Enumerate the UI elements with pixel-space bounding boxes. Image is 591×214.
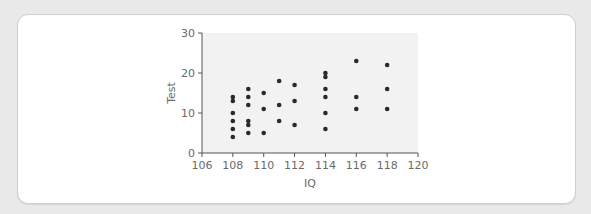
- data-point: [246, 87, 251, 92]
- data-point: [385, 63, 390, 68]
- y-tick-label: 30: [181, 27, 195, 40]
- data-point: [231, 95, 236, 100]
- data-point: [292, 83, 297, 88]
- data-point: [323, 127, 328, 132]
- data-point: [246, 123, 251, 128]
- x-tick-label: 116: [346, 159, 367, 172]
- data-point: [231, 111, 236, 116]
- y-tick-label: 10: [181, 107, 195, 120]
- y-tick-label: 0: [188, 147, 195, 160]
- x-tick-label: 106: [192, 159, 213, 172]
- y-tick-label: 20: [181, 67, 195, 80]
- data-point: [385, 107, 390, 112]
- data-point: [323, 111, 328, 116]
- plot-area: [202, 33, 418, 153]
- data-point: [261, 131, 266, 136]
- data-point: [354, 59, 359, 64]
- x-tick-label: 108: [222, 159, 243, 172]
- data-point: [246, 103, 251, 108]
- data-point: [261, 91, 266, 96]
- scatter-chart: 1061081101121141161181200102030 IQ Test: [0, 0, 591, 214]
- data-point: [277, 119, 282, 124]
- x-axis-label: IQ: [304, 177, 316, 190]
- data-point: [292, 123, 297, 128]
- data-point: [323, 75, 328, 80]
- data-point: [231, 119, 236, 124]
- data-point: [354, 95, 359, 100]
- data-point: [277, 103, 282, 108]
- data-point: [323, 87, 328, 92]
- data-point: [246, 119, 251, 124]
- data-point: [385, 87, 390, 92]
- data-point: [277, 79, 282, 84]
- data-point: [323, 95, 328, 100]
- x-tick-label: 110: [253, 159, 274, 172]
- data-point: [292, 99, 297, 104]
- data-point: [323, 71, 328, 76]
- x-tick-label: 118: [377, 159, 398, 172]
- data-point: [246, 131, 251, 136]
- data-point: [231, 99, 236, 104]
- x-tick-label: 112: [284, 159, 305, 172]
- data-point: [231, 135, 236, 140]
- x-tick-label: 120: [408, 159, 429, 172]
- data-point: [231, 127, 236, 132]
- data-point: [261, 107, 266, 112]
- data-point: [354, 107, 359, 112]
- x-tick-label: 114: [315, 159, 336, 172]
- data-point: [246, 95, 251, 100]
- y-axis-label: Test: [165, 81, 178, 104]
